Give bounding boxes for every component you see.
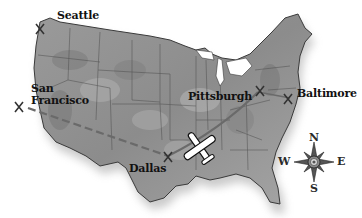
- city-label-baltimore: Baltimore: [297, 88, 357, 99]
- x-marker-san-francisco: [15, 102, 23, 112]
- compass-west: W: [278, 155, 290, 168]
- compass-north: N: [309, 131, 319, 144]
- city-label-san-francisco-line2: Francisco: [31, 95, 89, 106]
- city-label-pittsburgh: Pittsburgh: [188, 91, 252, 102]
- city-label-seattle: Seattle: [57, 10, 99, 21]
- map-canvas: [0, 0, 362, 218]
- city-label-san-francisco-line1: San: [31, 83, 53, 94]
- us-map: Seattle San Francisco Pittsburgh Baltimo…: [0, 0, 362, 218]
- city-label-dallas: Dallas: [129, 163, 166, 174]
- compass-east: E: [337, 155, 345, 168]
- compass-south: S: [310, 182, 318, 195]
- us-landmass: [34, 14, 312, 204]
- compass-rose-icon: [294, 142, 334, 182]
